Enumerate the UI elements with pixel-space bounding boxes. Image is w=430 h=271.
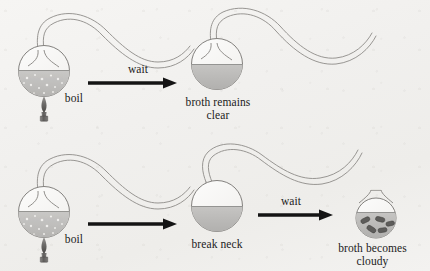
label-broth-becomes-cloudy: broth becomes cloudy <box>315 242 430 267</box>
flask-cloudy <box>355 190 397 242</box>
label-boil-1: boil <box>52 92 96 105</box>
broth-clear-2 <box>191 206 243 236</box>
arrow-wait-1 <box>88 78 177 89</box>
label-break-neck: break neck <box>173 238 261 251</box>
broth-clear-1 <box>191 64 243 94</box>
flame-icon-2 <box>41 237 46 254</box>
broth-cloudy <box>355 212 397 242</box>
detached-neck-segment <box>203 144 363 188</box>
label-wait-2: wait <box>265 195 317 208</box>
arrow-break-neck <box>88 219 177 230</box>
burner-1 <box>40 96 47 121</box>
flask-boiling-2 <box>18 155 194 263</box>
arrow-wait-2 <box>258 210 333 221</box>
label-wait-1: wait <box>110 63 166 76</box>
pasteur-experiment-figure: boil wait broth remains clear boil break… <box>0 0 430 271</box>
burner-2 <box>40 237 47 262</box>
diagram-canvas <box>0 0 430 271</box>
flame-icon-1 <box>41 96 46 113</box>
label-broth-remains-clear: broth remains clear <box>166 96 270 121</box>
flask-broken-neck <box>191 144 362 236</box>
flask-clear <box>191 8 376 94</box>
label-boil-2: boil <box>52 233 96 246</box>
